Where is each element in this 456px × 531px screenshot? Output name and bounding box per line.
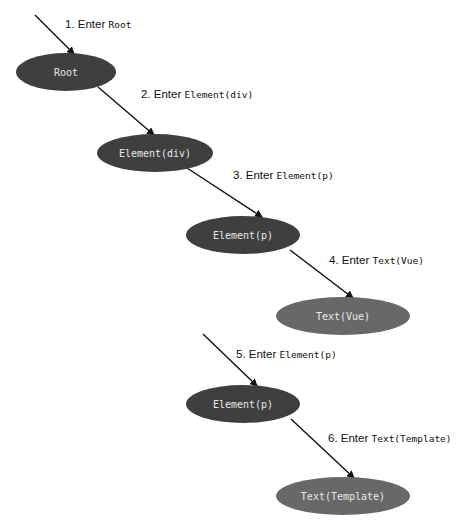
node-label: Element(p)	[213, 399, 273, 410]
node-text-template: Text(Template)	[276, 477, 410, 515]
step-number: 2. Enter	[141, 88, 184, 100]
step-target: Element(p)	[279, 349, 336, 360]
step-label: 2. Enter Element(div)	[141, 88, 253, 100]
node-label: Element(div)	[119, 148, 191, 159]
arrow-edge	[291, 419, 354, 478]
node-element-p-1: Element(p)	[186, 216, 300, 254]
step-label: 1. Enter Root	[65, 18, 131, 30]
step-label: 5. Enter Element(p)	[236, 348, 337, 360]
step-number: 1. Enter	[65, 18, 108, 30]
node-root: Root	[16, 53, 116, 91]
step-number: 5. Enter	[236, 348, 279, 360]
step-target: Root	[108, 19, 131, 30]
step-target: Text(Vue)	[372, 255, 423, 266]
node-label: Element(p)	[213, 230, 273, 241]
step-number: 3. Enter	[233, 169, 276, 181]
step-label: 6. Enter Text(Template)	[328, 432, 452, 444]
vdom-traversal-diagram: RootElement(div)Element(p)Text(Vue)Eleme…	[0, 0, 456, 531]
nodes-layer: RootElement(div)Element(p)Text(Vue)Eleme…	[16, 53, 410, 515]
node-element-p-2: Element(p)	[186, 385, 300, 423]
step-target: Element(p)	[276, 170, 333, 181]
node-label: Text(Template)	[301, 491, 385, 502]
step-label: 3. Enter Element(p)	[233, 169, 334, 181]
arrow-edge	[203, 334, 257, 386]
step-label: 4. Enter Text(Vue)	[329, 254, 424, 266]
node-text-vue: Text(Vue)	[276, 297, 410, 335]
step-target: Element(div)	[184, 89, 253, 100]
step-number: 4. Enter	[329, 254, 372, 266]
node-element-div: Element(div)	[97, 134, 213, 172]
step-target: Text(Template)	[371, 433, 451, 444]
node-label: Text(Vue)	[316, 311, 370, 322]
step-number: 6. Enter	[328, 432, 371, 444]
node-label: Root	[54, 67, 78, 78]
